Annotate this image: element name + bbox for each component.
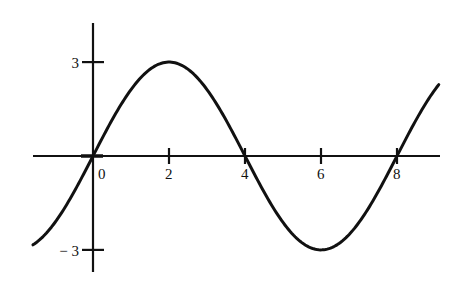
x-ticks: 02468: [81, 148, 401, 182]
x-tick-label: 6: [317, 166, 325, 182]
x-tick-label: 2: [165, 166, 173, 182]
y-tick-label: 3: [72, 55, 80, 71]
sine-chart: 02468 3− 3: [0, 0, 460, 287]
y-tick-label: − 3: [59, 243, 79, 259]
x-tick-label: 4: [241, 166, 249, 182]
axes: [33, 23, 440, 272]
x-tick-label: 0: [98, 166, 106, 182]
x-tick-label: 8: [393, 166, 401, 182]
